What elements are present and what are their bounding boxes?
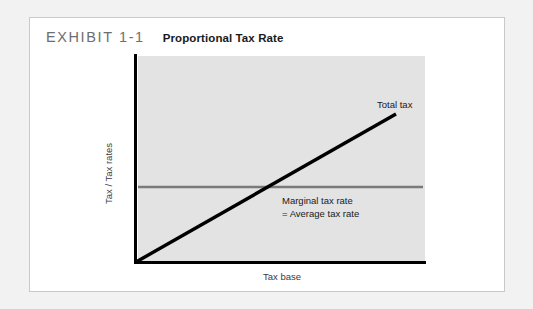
x-axis-label: Tax base [263,271,301,282]
exhibit-card: EXHIBIT 1-1 Proportional Tax Rate Tax / … [29,17,505,292]
proportional-tax-rate-chart: Tax / Tax rates Tax base Total tax Margi… [30,18,506,293]
chart-svg: Tax / Tax rates Tax base Total tax Margi… [30,18,506,293]
total-tax-label: Total tax [377,99,413,110]
y-axis-label: Tax / Tax rates [103,143,114,204]
plot-panel-background [138,56,425,262]
marginal-tax-rate-label: Marginal tax rate [282,195,353,206]
average-tax-rate-label: = Average tax rate [282,208,359,219]
